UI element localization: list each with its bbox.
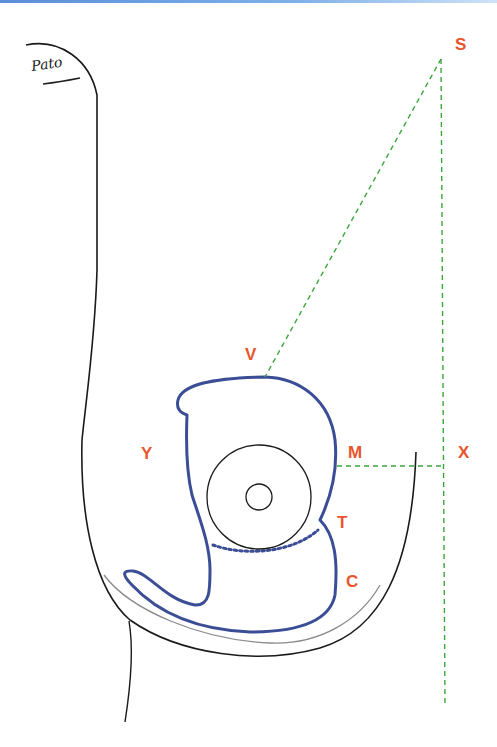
- breast-reduction-diagram: Pato S V Y M X T C: [0, 0, 497, 747]
- guide-line-sx: [441, 59, 445, 706]
- label-v: V: [245, 345, 257, 364]
- signature: Pato: [29, 54, 80, 84]
- body-contour: [26, 44, 416, 656]
- incision-outline: [125, 377, 336, 632]
- label-x: X: [458, 443, 470, 462]
- areola: [207, 445, 311, 549]
- label-s: S: [455, 35, 466, 54]
- torso-line: [125, 621, 131, 722]
- label-y: Y: [141, 444, 153, 463]
- signature-underline: [43, 78, 80, 84]
- label-m: M: [348, 443, 362, 462]
- nipple: [246, 484, 272, 510]
- label-t: T: [337, 513, 348, 532]
- label-c: C: [346, 572, 358, 591]
- signature-text: Pato: [29, 54, 63, 74]
- guide-line-sv: [265, 59, 441, 377]
